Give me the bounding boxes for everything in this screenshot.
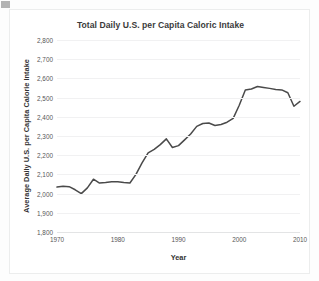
gridline-y-1900: [57, 213, 300, 214]
x-axis-title: Year: [57, 253, 300, 262]
gridline-y-2100: [57, 174, 300, 175]
gridline-y-2400: [57, 117, 300, 118]
y-tick-label-2600: 2,600: [37, 75, 53, 82]
gridline-y-2600: [57, 78, 300, 79]
y-axis-title: Average Daily U.S. per Capita Calorie In…: [22, 59, 31, 213]
y-tick-label-2500: 2,500: [37, 94, 53, 101]
gridline-y-2200: [57, 155, 300, 156]
gridline-y-2500: [57, 98, 300, 99]
chart-title: Total Daily U.S. per Capita Caloric Inta…: [10, 20, 311, 30]
gridline-y-2000: [57, 194, 300, 195]
y-tick-label-2200: 2,200: [37, 152, 53, 159]
gridline-y-2700: [57, 59, 300, 60]
gridline-y-2800: [57, 40, 300, 41]
y-tick-label-2100: 2,100: [37, 171, 53, 178]
series-polyline: [57, 86, 300, 193]
plot-area: 1,8001,9002,0002,1002,2002,3002,4002,500…: [57, 40, 300, 232]
screenshot-root: Total Daily U.S. per Capita Caloric Inta…: [0, 0, 319, 281]
x-tick-label-1980: 1980: [111, 236, 125, 243]
y-tick-label-2800: 2,800: [37, 37, 53, 44]
y-tick-label-1800: 1,800: [37, 229, 53, 236]
scan-artifact: [1, 1, 10, 8]
chart-container: Total Daily U.S. per Capita Caloric Inta…: [9, 9, 310, 274]
x-tick-label-2010: 2010: [293, 236, 307, 243]
y-tick-label-2300: 2,300: [37, 133, 53, 140]
x-tick-label-1990: 1990: [171, 236, 185, 243]
gridline-y-1800: [57, 232, 300, 233]
x-tick-label-2000: 2000: [232, 236, 246, 243]
gridline-y-2300: [57, 136, 300, 137]
y-tick-label-2700: 2,700: [37, 56, 53, 63]
y-tick-label-1900: 1,900: [37, 209, 53, 216]
x-tick-label-1970: 1970: [50, 236, 64, 243]
y-tick-label-2000: 2,000: [37, 190, 53, 197]
y-tick-label-2400: 2,400: [37, 113, 53, 120]
